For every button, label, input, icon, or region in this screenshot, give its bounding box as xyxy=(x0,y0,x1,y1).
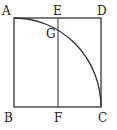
label-c: C xyxy=(98,111,107,125)
label-a: A xyxy=(1,4,11,18)
label-d: D xyxy=(97,4,107,18)
diagram-canvas: A E D G B F C xyxy=(0,0,117,130)
label-f: F xyxy=(54,111,62,125)
label-g: G xyxy=(46,27,56,41)
label-e: E xyxy=(53,4,62,18)
label-b: B xyxy=(4,111,13,125)
